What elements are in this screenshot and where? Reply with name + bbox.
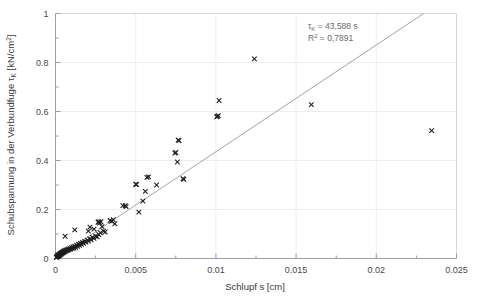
- chart-canvas: 00.0050.010.0150.020.025 00.20.40.60.81 …: [0, 0, 480, 300]
- x-tick-label: 0.005: [124, 265, 147, 275]
- x-tick-label: 0: [53, 265, 58, 275]
- scatter-chart-figure: 00.0050.010.0150.020.025 00.20.40.60.81 …: [0, 0, 480, 300]
- x-tick-label: 0.015: [285, 265, 308, 275]
- x-tick-label: 0.02: [368, 265, 386, 275]
- x-tick-label: 0.01: [207, 265, 225, 275]
- y-tick-label: 0.4: [36, 156, 49, 166]
- y-tick-label: 0: [43, 254, 48, 264]
- x-tick-label: 0.025: [445, 265, 468, 275]
- y-tick-label: 0.6: [36, 107, 49, 117]
- chart-background: [0, 0, 480, 300]
- slope-annotation: τK = 43,588 s: [308, 21, 358, 32]
- x-axis-title: Schlupf s [cm]: [225, 281, 285, 292]
- y-tick-label: 0.2: [36, 205, 49, 215]
- y-tick-label: 1: [43, 9, 48, 19]
- y-tick-label: 0.8: [36, 58, 49, 68]
- y-axis-title: Schubspannung in der Verbundfuge τK [kN/…: [5, 35, 17, 236]
